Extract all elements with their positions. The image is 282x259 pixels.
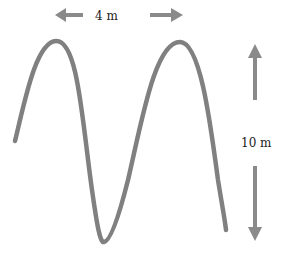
amplitude-up-arrow — [248, 44, 262, 100]
wavelength-right-arrow — [150, 8, 183, 22]
amplitude-down-arrow — [248, 166, 262, 241]
wavelength-left-arrow — [55, 8, 83, 22]
wavelength-label: 4 m — [95, 9, 118, 23]
wave-diagram: 4 m 10 m — [0, 0, 282, 259]
wave-curve — [15, 41, 226, 242]
amplitude-label: 10 m — [241, 136, 272, 150]
